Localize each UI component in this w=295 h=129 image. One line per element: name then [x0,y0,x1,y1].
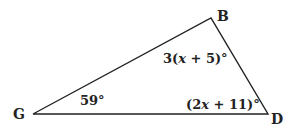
triangle-diagram: B G D 3(x + 5)° 59° (2x + 11)° [0,0,295,129]
angle-label-d: (2x + 11)° [186,97,260,112]
angle-label-b: 3(x + 5)° [163,51,228,66]
vertex-label-b: B [217,8,229,24]
vertex-label-g: G [13,106,25,122]
vertex-label-d: D [271,111,283,127]
angle-label-g: 59° [80,93,105,108]
